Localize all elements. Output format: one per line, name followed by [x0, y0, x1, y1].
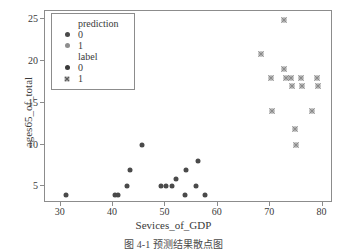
x-axis-title: Sevices_of_GDP	[0, 219, 347, 231]
data-point	[195, 159, 200, 164]
data-point	[257, 50, 264, 57]
circle-marker-icon	[56, 29, 78, 40]
y-axis-tick-label: 5	[22, 180, 38, 191]
data-point	[164, 184, 169, 189]
data-point	[269, 108, 276, 115]
data-point	[63, 192, 68, 197]
plot-frame: prediction01label01	[44, 10, 332, 202]
y-axis-tick-label: 25	[22, 13, 38, 24]
legend-entry-label: 1	[78, 40, 83, 51]
y-axis-tick-label: 15	[22, 96, 38, 107]
data-point	[292, 141, 299, 148]
circle-marker-icon	[56, 40, 78, 51]
chart-legend: prediction01label01	[51, 13, 135, 90]
legend-entry: 1	[56, 73, 130, 84]
x-axis-tick-label: 30	[55, 206, 65, 217]
legend-group-title: prediction	[56, 18, 130, 29]
legend-entry: 0	[56, 62, 130, 73]
x-axis-tick-label: 50	[159, 206, 169, 217]
y-axis-tick-label: 20	[22, 55, 38, 66]
y-axis-title: ages65_of_total	[22, 52, 34, 172]
data-point	[314, 83, 321, 90]
legend-entry-label: 0	[78, 29, 83, 40]
legend-entry-label: 0	[78, 62, 83, 73]
data-point	[183, 192, 188, 197]
data-point	[169, 184, 174, 189]
data-point	[140, 142, 145, 147]
data-point	[292, 125, 299, 132]
data-point	[299, 83, 306, 90]
data-point	[183, 167, 188, 172]
data-point	[174, 176, 179, 181]
data-point	[127, 167, 132, 172]
data-point	[288, 74, 295, 81]
legend-entry: 1	[56, 40, 130, 51]
data-point	[280, 66, 287, 73]
circle-marker-icon	[56, 62, 78, 73]
data-point	[309, 108, 316, 115]
data-point	[194, 184, 199, 189]
x-axis-tick-label: 70	[264, 206, 274, 217]
data-point	[202, 192, 207, 197]
data-point	[298, 74, 305, 81]
legend-entry: 0	[56, 29, 130, 40]
y-axis-tick-label: 10	[22, 138, 38, 149]
legend-group-title: label	[56, 51, 130, 62]
data-point	[125, 184, 130, 189]
data-point	[267, 74, 274, 81]
data-point	[281, 17, 288, 24]
x-axis-tick-label: 40	[107, 206, 117, 217]
legend-entry-label: 1	[78, 73, 83, 84]
figure-caption: 图 4-1 预测结果散点图	[0, 236, 347, 251]
x-axis-tick-label: 80	[317, 206, 327, 217]
x-axis-tick-label: 60	[212, 206, 222, 217]
data-point	[116, 192, 121, 197]
data-point	[289, 83, 296, 90]
data-point	[313, 74, 320, 81]
cross-marker-icon	[56, 73, 78, 84]
